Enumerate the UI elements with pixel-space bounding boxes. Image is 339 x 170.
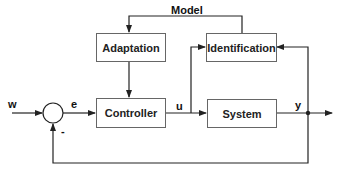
system-block: System <box>207 99 277 128</box>
system-label: System <box>222 108 261 120</box>
connector-lines <box>0 0 339 170</box>
branch-point <box>306 111 310 115</box>
model-signal-label: Model <box>171 5 203 16</box>
u-signal-label: u <box>176 101 183 112</box>
minus-sign: - <box>61 126 65 137</box>
adaptation-label: Adaptation <box>102 42 159 54</box>
w-signal-label: w <box>8 99 17 110</box>
identification-block: Identification <box>206 33 277 62</box>
controller-label: Controller <box>105 107 158 119</box>
controller-block: Controller <box>96 98 166 128</box>
adaptation-block: Adaptation <box>96 33 166 62</box>
y-signal-label: y <box>295 100 301 111</box>
e-signal-label: e <box>71 99 77 110</box>
identification-label: Identification <box>207 42 275 54</box>
